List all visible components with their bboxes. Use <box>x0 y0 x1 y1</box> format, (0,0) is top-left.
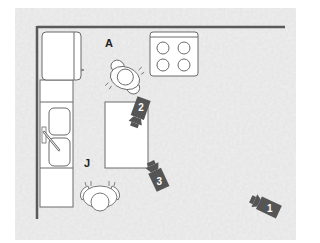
person-a-label: A <box>105 37 113 49</box>
person-j-label: J <box>84 157 90 169</box>
kitchen-floor-plan: 2 3 1 <box>0 0 320 243</box>
burner-icon <box>178 59 190 71</box>
camera-1-number: 1 <box>267 203 273 214</box>
camera-2-number: 2 <box>138 102 144 113</box>
refrigerator <box>42 32 84 80</box>
burner-icon <box>157 42 169 54</box>
burner-icon <box>178 42 190 54</box>
camera-3-number: 3 <box>156 176 162 187</box>
stove <box>150 32 198 76</box>
burner-icon <box>157 59 169 71</box>
